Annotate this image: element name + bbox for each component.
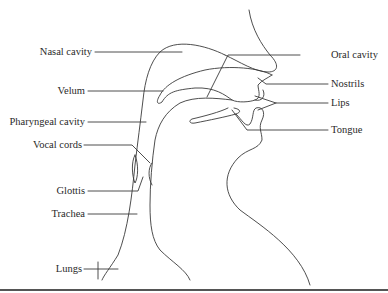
nasal-cavity-outline [102,44,225,280]
throat-outline [150,98,232,280]
vocal-tract-diagram: Nasal cavity Velum Pharyngeal cavity Voc… [0,0,388,293]
label-nasal-cavity: Nasal cavity [0,46,92,58]
label-trachea: Trachea [0,208,85,220]
nose-outline [225,10,277,72]
label-tongue: Tongue [331,124,362,136]
label-oral-cavity: Oral cavity [331,49,378,61]
bottom-rule [0,289,388,291]
label-nostrils: Nostrils [331,78,364,90]
label-glottis: Glottis [0,185,85,197]
label-pharyngeal-cavity: Pharyngeal cavity [0,116,85,128]
label-lips: Lips [331,97,350,109]
lower-jaw-outline [227,108,310,285]
label-vocal-cords: Vocal cords [0,139,82,151]
label-velum: Velum [0,85,85,97]
label-lungs: Lungs [0,263,82,275]
